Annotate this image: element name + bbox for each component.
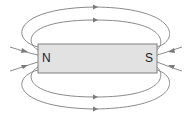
arrow-icon bbox=[93, 95, 98, 100]
magnet-diagram bbox=[0, 0, 190, 116]
north-pole-label: N bbox=[42, 51, 51, 65]
arrow-icon bbox=[21, 65, 28, 69]
arrow-icon bbox=[93, 5, 98, 10]
arrow-icon bbox=[168, 48, 175, 53]
arrow-icon bbox=[93, 18, 98, 23]
bar-magnet bbox=[38, 44, 157, 73]
field-line-right-lower bbox=[157, 62, 182, 71]
arrow-icon bbox=[93, 107, 98, 112]
south-pole-label: S bbox=[145, 51, 153, 65]
